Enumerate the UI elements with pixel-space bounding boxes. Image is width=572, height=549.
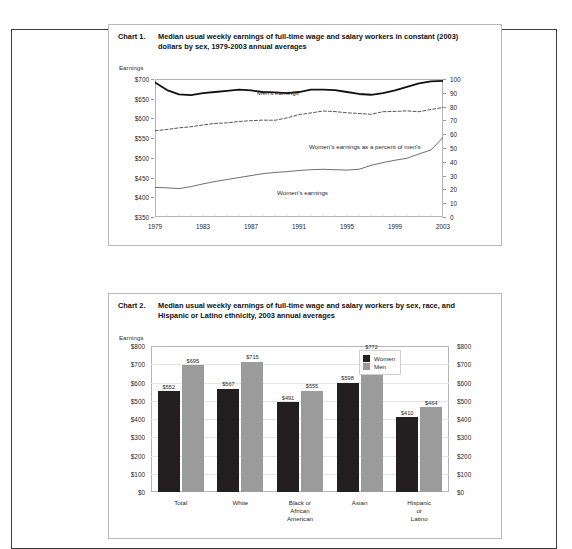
bar-men-black-or-african-american [301,391,323,492]
chart-1-right-tickmark [443,79,446,80]
chart-1-left-tickmark [151,99,154,100]
legend-item-women: Women [363,355,395,362]
bar-value-label: $555 [306,383,318,389]
chart-1-left-tickmark [151,79,154,80]
chart-1-earnings-caption: Earnings [119,65,143,71]
bar-women-black-or-african-american [277,402,299,492]
chart-1-x-tick: 1987 [244,223,258,230]
chart-1-right-tickmark [443,134,446,135]
chart-2-right-tick: $400 [457,416,471,423]
chart-2-right-tick: $200 [457,452,471,459]
chart-1-left-tick: $350 [111,214,149,221]
category-label-total: Total [174,499,187,507]
bar-women-total [158,391,180,492]
chart-1-right-tickmark [443,203,446,204]
chart-1-left-tickmark [151,197,154,198]
chart-1-right-tickmark [443,107,446,108]
category-label-black-or-african-american: Black orAfricanAmerican [287,499,313,523]
chart-2-panel: Chart 2.Median usual weekly earnings of … [108,293,502,539]
bar-value-label: $552 [163,384,175,390]
chart-2-right-tick: $0 [457,489,464,496]
chart-1-left-tickmark [151,118,154,119]
chart-1-right-tick: 80 [450,103,457,110]
bar-women-asian [337,383,359,492]
chart-2-title-block: Chart 2.Median usual weekly earnings of … [118,301,491,321]
chart-1-left-tickmark [151,178,154,179]
chart-1-left-tickmark [151,138,154,139]
chart-2-left-tick: $400 [109,416,145,423]
chart-1-right-tick: 10 [450,200,457,207]
chart-1-right-tick: 60 [450,131,457,138]
bar-women-white [217,389,239,492]
chart-1-x-tick: 1979 [148,223,162,230]
chart-1-left-tick: $400 [111,194,149,201]
chart-1-series-men-s-earnings [155,81,443,95]
bar-men-white [241,362,263,492]
chart-2-number: Chart 2. [118,301,158,311]
chart-1-right-tickmark [443,93,446,94]
category-label-hispanic-or-latino: HispanicorLatino [407,499,431,523]
chart-1-series-women-s-earnings-as-a-percent-of-men-s [155,107,443,130]
chart-1-right-tickmark [443,189,446,190]
chart-2-earnings-caption: Earnings [119,335,143,341]
chart-2-left-tick: $0 [109,489,145,496]
chart-1-x-tick: 2003 [436,223,450,230]
bar-women-hispanic-or-latino [396,417,418,492]
legend-label: Men [374,363,386,370]
chart-1-right-tickmark [443,120,446,121]
chart-2-right-tick: $700 [457,361,471,368]
chart-1-right-tick: 40 [450,158,457,165]
chart-1-right-tickmark [443,217,446,218]
bar-value-label: $772 [365,344,377,350]
chart-1-x-tick: 1995 [340,223,354,230]
chart-1-title-text: Median usual weekly earnings of full-tim… [158,32,468,52]
chart-2-right-tick: $300 [457,434,471,441]
chart-1-left-tickmark [151,158,154,159]
chart-1-left-tick: $600 [111,115,149,122]
chart-1-left-tick: $650 [111,95,149,102]
chart-2-left-tick: $700 [109,361,145,368]
chart-2-right-tick: $100 [457,470,471,477]
legend-swatch-women [363,355,370,362]
chart-2-right-tick: $800 [457,343,471,350]
category-label-asian: Asian [352,499,367,507]
chart-1-title-block: Chart 1.Median usual weekly earnings of … [118,32,491,52]
legend-label: Women [374,355,395,362]
chart-1-right-tickmark [443,176,446,177]
chart-1-left-tick: $500 [111,154,149,161]
chart-1-right-tick: 90 [450,89,457,96]
chart-1-left-tickmark [151,217,154,218]
chart-2-title-text: Median usual weekly earnings of full-tim… [158,301,468,321]
chart-1-right-tick: 70 [450,117,457,124]
category-label-white: White [232,499,248,507]
chart-1-number: Chart 1. [118,32,158,42]
chart-1-x-tick: 1991 [292,223,306,230]
legend-item-men: Men [363,363,395,370]
chart-2-plot-area [151,346,449,492]
bar-value-label: $410 [401,410,413,416]
chart-1-panel: Chart 1.Median usual weekly earnings of … [108,24,502,246]
chart-1-right-tickmark [443,162,446,163]
chart-2-left-tick: $500 [109,397,145,404]
chart-2-left-tick: $800 [109,343,145,350]
chart-1-x-tick: 1983 [196,223,210,230]
chart-1-right-tick: 100 [450,76,461,83]
bar-value-label: $567 [222,381,234,387]
chart-1-right-tick: 50 [450,145,457,152]
chart-1-series-label-percent: Women's earnings as a percent of men's [309,143,421,150]
bar-value-label: $695 [187,358,199,364]
chart-2-right-tick: $600 [457,379,471,386]
chart-2-left-tick: $200 [109,452,145,459]
bar-value-label: $715 [246,354,258,360]
chart-1-left-tick: $550 [111,135,149,142]
chart-1-x-tick: 1999 [388,223,402,230]
chart-1-left-tick: $450 [111,174,149,181]
chart-1-right-tick: 0 [450,214,454,221]
bar-value-label: $598 [341,375,353,381]
bar-value-label: $464 [425,400,437,406]
chart-2-left-tick: $300 [109,434,145,441]
bar-men-total [182,365,204,492]
chart-2-left-tick: $100 [109,470,145,477]
chart-1-series-label-womens: Women's earnings [277,189,328,196]
bar-value-label: $491 [282,395,294,401]
